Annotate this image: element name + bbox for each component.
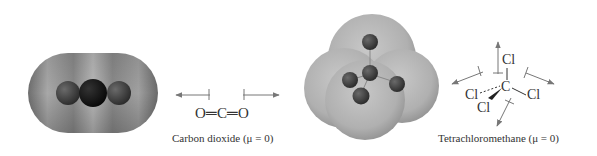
- double-bond: ═: [227, 105, 238, 121]
- ccl4-caption: Tetrachloromethane (μ = 0): [438, 132, 559, 144]
- atom-label-chlorine-right: Cl: [527, 88, 540, 102]
- atom-label-oxygen: O: [195, 105, 206, 121]
- oxygen-atom: [56, 81, 80, 105]
- double-bond: ═: [206, 105, 217, 121]
- carbon-atom: [79, 79, 107, 107]
- ccl4-space-filling-model: [304, 14, 439, 140]
- co2-structural-formula: O═C═O: [195, 105, 249, 122]
- atom-label-carbon: C: [217, 105, 227, 121]
- co2-space-filling-model: [28, 53, 158, 133]
- atom-label-oxygen: O: [238, 105, 249, 121]
- atom-label-chlorine-top: Cl: [502, 53, 515, 67]
- atom-label-carbon: C: [501, 80, 510, 94]
- co2-dipole-arrows: [176, 89, 279, 100]
- oxygen-atom: [107, 81, 131, 105]
- co2-caption: Carbon dioxide (μ = 0): [172, 132, 273, 144]
- atom-label-chlorine-front: Cl: [477, 101, 490, 115]
